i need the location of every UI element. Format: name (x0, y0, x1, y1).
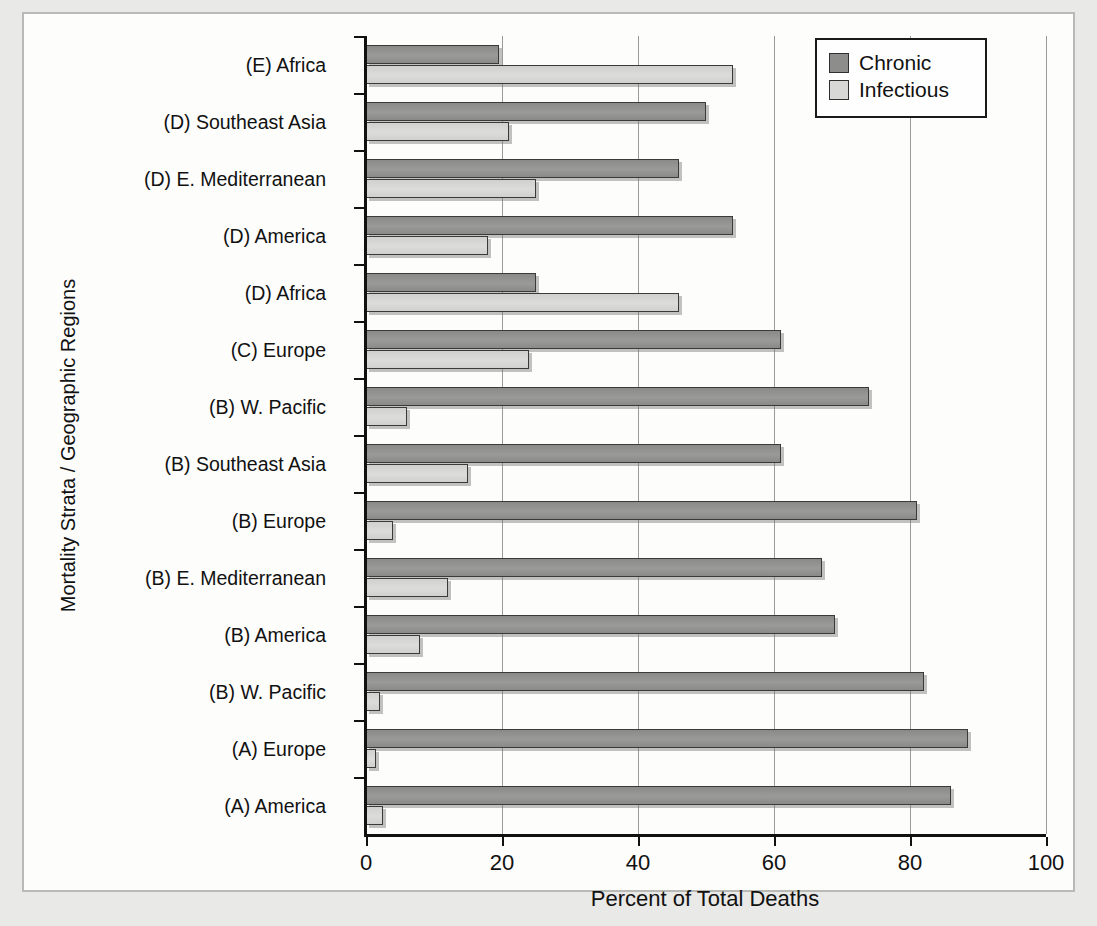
scanned-page-background: (A) America(A) Europe(B) W. Pacific(B) A… (0, 0, 1097, 926)
y-tick-9 (354, 264, 364, 266)
x-axis-title: Percent of Total Deaths (364, 886, 1046, 912)
y-tick-4 (354, 549, 364, 551)
y-tick-1 (354, 720, 364, 722)
gridline-80 (910, 36, 911, 834)
bar-infectious (366, 464, 468, 483)
legend-label-chronic: Chronic (859, 52, 931, 73)
legend-swatch-chronic-icon (829, 53, 849, 73)
bar-infectious (366, 692, 380, 711)
y-tick-13 (354, 36, 364, 38)
x-tick-40 (638, 837, 640, 846)
legend-swatch-infectious-icon (829, 80, 849, 100)
bar-chronic (366, 159, 679, 178)
gridline-40 (638, 36, 639, 834)
plot-area: (A) America(A) Europe(B) W. Pacific(B) A… (24, 14, 1077, 894)
bar-chronic (366, 330, 781, 349)
y-category-label: (D) Southeast Asia (24, 111, 348, 134)
x-tick-80 (910, 837, 912, 846)
x-axis-line (364, 834, 1046, 837)
y-tick-2 (354, 663, 364, 665)
gridline-20 (502, 36, 503, 834)
chart-legend: Chronic Infectious (815, 38, 987, 118)
bar-infectious (366, 236, 488, 255)
y-tick-5 (354, 492, 364, 494)
y-category-label: (A) America (24, 795, 348, 818)
y-axis-title: Mortality Strata / Geographic Regions (57, 136, 80, 756)
bar-infectious (366, 578, 448, 597)
x-tick-label-100: 100 (1016, 850, 1076, 876)
x-tick-label-0: 0 (336, 850, 396, 876)
bar-chronic (366, 729, 968, 748)
legend-item-infectious: Infectious (829, 79, 975, 100)
x-tick-label-40: 40 (608, 850, 668, 876)
bar-chronic (366, 273, 536, 292)
x-tick-20 (502, 837, 504, 846)
bar-chronic (366, 501, 917, 520)
x-tick-60 (774, 837, 776, 846)
bar-chronic (366, 216, 733, 235)
x-tick-label-20: 20 (472, 850, 532, 876)
bar-infectious (366, 293, 679, 312)
bar-infectious (366, 806, 383, 825)
gridline-100 (1046, 36, 1047, 834)
x-tick-label-60: 60 (744, 850, 804, 876)
legend-item-chronic: Chronic (829, 52, 975, 73)
bar-infectious (366, 635, 420, 654)
bar-infectious (366, 749, 376, 768)
y-tick-7 (354, 378, 364, 380)
y-tick-8 (354, 321, 364, 323)
bar-chronic (366, 558, 822, 577)
y-tick-10 (354, 207, 364, 209)
bar-chronic (366, 102, 706, 121)
y-tick-6 (354, 435, 364, 437)
figure-frame: (A) America(A) Europe(B) W. Pacific(B) A… (22, 12, 1075, 892)
bar-chronic (366, 786, 951, 805)
bar-infectious (366, 350, 529, 369)
y-tick-0 (354, 777, 364, 779)
x-tick-label-80: 80 (880, 850, 940, 876)
bar-chronic (366, 672, 924, 691)
bar-infectious (366, 407, 407, 426)
bar-infectious (366, 521, 393, 540)
legend-label-infectious: Infectious (859, 79, 949, 100)
bar-chronic (366, 387, 869, 406)
y-tick-3 (354, 606, 364, 608)
gridline-60 (774, 36, 775, 834)
x-tick-0 (366, 837, 368, 846)
bar-infectious (366, 122, 509, 141)
y-tick-12 (354, 93, 364, 95)
bar-chronic (366, 45, 499, 64)
bar-chronic (366, 615, 835, 634)
bar-infectious (366, 179, 536, 198)
y-category-label: (E) Africa (24, 54, 348, 77)
bar-infectious (366, 65, 733, 84)
x-tick-100 (1046, 837, 1048, 846)
y-tick-11 (354, 150, 364, 152)
bar-chronic (366, 444, 781, 463)
y-axis-line (364, 36, 367, 836)
